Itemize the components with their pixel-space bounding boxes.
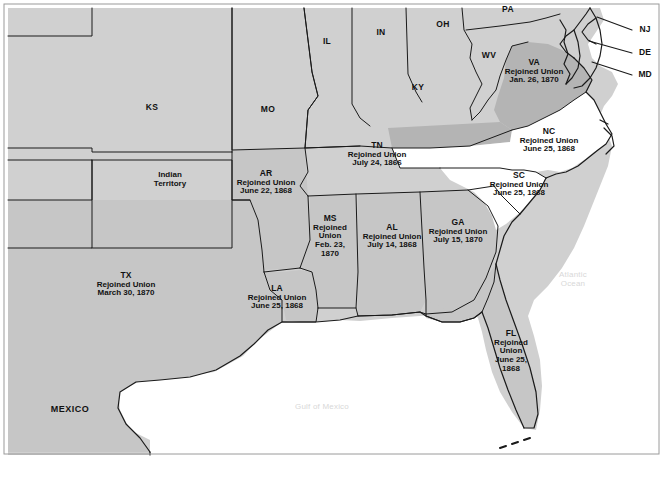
reconstruction-map: VARejoined UnionJan. 26, 1870NCRejoined … [0,0,663,480]
map-graphic [0,0,663,480]
state-al-fill [356,192,426,316]
